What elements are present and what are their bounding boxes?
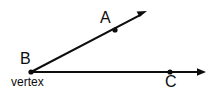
point-c-label: C — [165, 74, 177, 90]
point-b-dot — [28, 69, 33, 74]
vertex-caption-label: vertex — [11, 76, 44, 88]
ray-ba-line — [31, 15, 141, 72]
point-b-label: B — [20, 51, 31, 67]
point-a-label: A — [100, 10, 111, 26]
ray-bc-arrowhead — [197, 68, 206, 76]
angle-diagram: A B C vertex — [0, 0, 212, 97]
point-a-dot — [112, 27, 117, 32]
